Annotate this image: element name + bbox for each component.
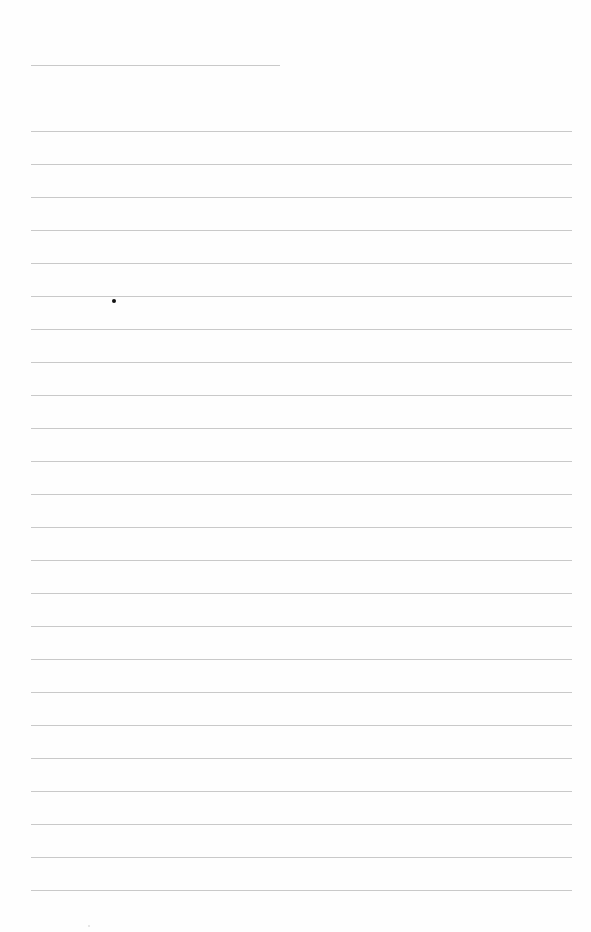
ruled-line — [31, 230, 572, 231]
ruled-line — [31, 164, 572, 165]
ruled-line — [31, 527, 572, 528]
ruled-line — [31, 692, 572, 693]
ruled-line — [31, 395, 572, 396]
ruled-line — [31, 428, 572, 429]
ruled-line — [31, 593, 572, 594]
ruled-line — [31, 494, 572, 495]
ruled-line — [31, 857, 572, 858]
ruled-line — [31, 461, 572, 462]
faint-mark — [88, 925, 90, 927]
ruled-line — [31, 560, 572, 561]
ruled-line — [31, 725, 572, 726]
ruled-line — [31, 296, 572, 297]
ruled-line — [31, 791, 572, 792]
ruled-line — [31, 824, 572, 825]
ruled-line — [31, 659, 572, 660]
ink-dot — [112, 299, 116, 303]
header-line — [31, 65, 280, 66]
ruled-line — [31, 131, 572, 132]
ruled-line — [31, 197, 572, 198]
ruled-line — [31, 263, 572, 264]
ruled-line — [31, 362, 572, 363]
lined-paper-page — [0, 0, 591, 932]
ruled-line — [31, 329, 572, 330]
ruled-line — [31, 758, 572, 759]
ruled-line — [31, 626, 572, 627]
ruled-line — [31, 890, 572, 891]
